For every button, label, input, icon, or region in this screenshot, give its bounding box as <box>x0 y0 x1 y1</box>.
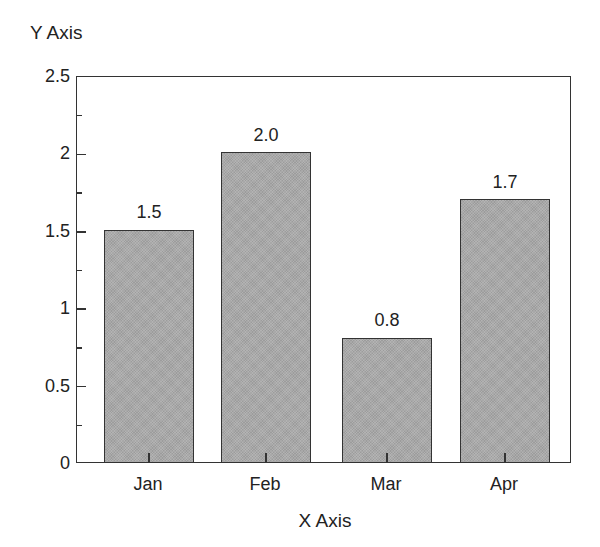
y-tick-label: 2 <box>60 143 70 164</box>
y-major-tick <box>77 154 86 156</box>
y-minor-tick <box>77 192 82 194</box>
y-minor-tick <box>77 425 82 427</box>
y-axis-title: Y Axis <box>30 22 82 44</box>
y-minor-tick <box>77 270 82 272</box>
bar-value-label-feb: 2.0 <box>221 125 311 146</box>
y-tick-label: 2.5 <box>45 66 70 87</box>
bar-apr <box>460 199 550 462</box>
x-tick-label-feb: Feb <box>220 474 310 495</box>
plot-area: 1.5 2.0 0.8 1.7 <box>76 76 571 463</box>
bar-feb <box>221 152 311 462</box>
x-tick <box>386 453 388 462</box>
y-minor-tick <box>77 347 82 349</box>
y-tick-label: 0 <box>60 453 70 474</box>
y-major-tick <box>77 308 86 310</box>
bar-value-label-apr: 1.7 <box>460 172 550 193</box>
x-tick <box>265 453 267 462</box>
bar-value-label-jan: 1.5 <box>104 202 194 223</box>
y-major-tick <box>77 231 86 233</box>
x-tick <box>148 453 150 462</box>
bar-mar <box>342 338 432 462</box>
y-tick-label: 0.5 <box>45 375 70 396</box>
y-major-tick <box>77 386 86 388</box>
y-tick-label: 1.5 <box>45 220 70 241</box>
x-tick-label-apr: Apr <box>459 474 549 495</box>
x-tick <box>504 453 506 462</box>
x-tick-label-jan: Jan <box>103 474 193 495</box>
x-tick-label-mar: Mar <box>341 474 431 495</box>
bar-jan <box>104 230 194 462</box>
bar-value-label-mar: 0.8 <box>342 310 432 331</box>
x-axis-title: X Axis <box>0 510 600 532</box>
y-minor-tick <box>77 115 82 117</box>
y-tick-label: 1 <box>60 298 70 319</box>
